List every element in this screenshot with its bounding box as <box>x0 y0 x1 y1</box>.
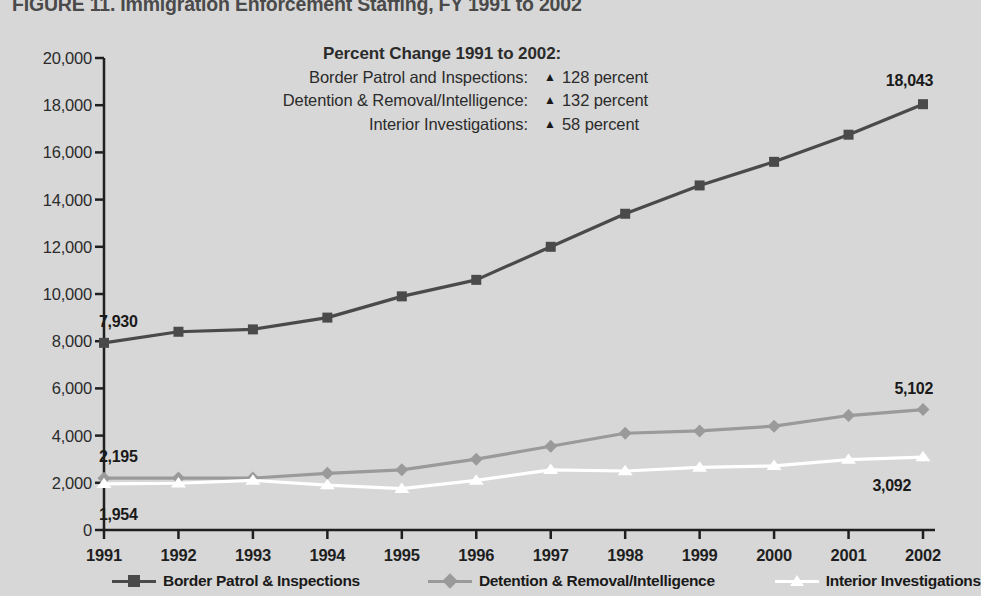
triangle-up-icon: ▲ <box>538 92 562 109</box>
annotation-row-detention: Detention & Removal/Intelligence: ▲ 132 … <box>196 89 688 112</box>
annotation-label: Interior Investigations: <box>196 113 538 136</box>
x-axis-tick-label: 2002 <box>905 546 941 565</box>
chart-legend: Border Patrol & Inspections Detention & … <box>0 566 947 596</box>
annotation-row-border-patrol: Border Patrol and Inspections: ▲ 128 per… <box>196 66 688 89</box>
x-axis-tick-label: 1994 <box>309 546 345 565</box>
legend-item-border-patrol[interactable]: Border Patrol & Inspections <box>112 572 360 590</box>
triangle-up-icon: ▲ <box>538 69 562 86</box>
legend-swatch-triangle-icon <box>775 573 819 589</box>
annotation-value: 58 percent <box>562 113 688 136</box>
x-axis-tick-label: 2001 <box>831 546 867 565</box>
y-axis-tick-label: 12,000 <box>16 237 92 256</box>
y-axis-tick-label: 10,000 <box>16 285 92 304</box>
data-point-label: 1,954 <box>99 506 138 524</box>
annotation-value: 132 percent <box>562 89 688 112</box>
y-axis-tick-label: 14,000 <box>16 190 92 209</box>
annotation-label: Detention & Removal/Intelligence: <box>196 89 538 112</box>
y-axis-tick-label: 6,000 <box>16 379 92 398</box>
legend-item-detention[interactable]: Detention & Removal/Intelligence <box>428 572 715 590</box>
percent-change-annotation: Percent Change 1991 to 2002: Border Patr… <box>196 44 688 136</box>
data-point-label: 5,102 <box>894 380 933 398</box>
y-axis-tick-label: 8,000 <box>16 332 92 351</box>
x-axis-tick-label: 1992 <box>161 546 197 565</box>
legend-label: Detention & Removal/Intelligence <box>479 572 715 590</box>
legend-label: Interior Investigations <box>826 572 981 590</box>
x-axis-tick-label: 1996 <box>458 546 494 565</box>
x-axis-tick-label: 1998 <box>607 546 643 565</box>
x-axis-tick-label: 1999 <box>682 546 718 565</box>
data-point-label: 7,930 <box>99 313 138 331</box>
annotation-value: 128 percent <box>562 66 688 89</box>
data-point-label: 2,195 <box>99 448 138 466</box>
legend-swatch-square-icon <box>112 573 156 589</box>
x-axis-tick-label: 1993 <box>235 546 271 565</box>
triangle-up-icon: ▲ <box>538 116 562 133</box>
x-axis-tick-label: 1991 <box>86 546 122 565</box>
legend-swatch-diamond-icon <box>428 573 472 589</box>
annotation-title: Percent Change 1991 to 2002: <box>196 44 688 64</box>
y-axis-tick-label: 2,000 <box>16 473 92 492</box>
y-axis-tick-label: 20,000 <box>16 49 92 68</box>
y-axis-tick-label: 18,000 <box>16 96 92 115</box>
data-point-label: 18,043 <box>886 72 933 90</box>
y-axis-tick-label: 4,000 <box>16 426 92 445</box>
x-axis-tick-label: 1995 <box>384 546 420 565</box>
y-axis-tick-label: 0 <box>16 521 92 540</box>
x-axis-tick-label: 2000 <box>756 546 792 565</box>
x-axis-tick-label: 1997 <box>533 546 569 565</box>
legend-item-interior[interactable]: Interior Investigations <box>775 572 981 590</box>
annotation-label: Border Patrol and Inspections: <box>196 66 538 89</box>
y-axis-tick-label: 16,000 <box>16 143 92 162</box>
legend-label: Border Patrol & Inspections <box>163 572 360 590</box>
annotation-row-interior: Interior Investigations: ▲ 58 percent <box>196 113 688 136</box>
data-point-label: 3,092 <box>872 477 911 495</box>
